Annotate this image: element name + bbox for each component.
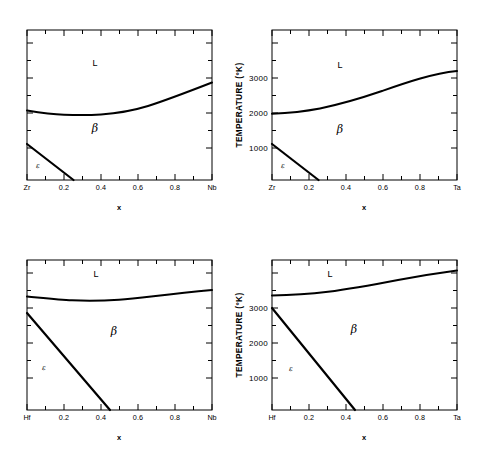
liquidus-curve-hf-ta (272, 271, 457, 296)
phase-label-epsilon-zr-ta: ε (281, 162, 285, 170)
y-ticks-zr-nb (27, 43, 212, 148)
liquidus-curve-zr-nb (27, 83, 212, 116)
y-tick-label-3000-hf-ta: 3000 (249, 304, 268, 313)
x-right-label-hf-nb: Nb (207, 413, 216, 422)
x-right-label-zr-nb: Nb (207, 183, 216, 192)
x-left-label-zr-ta: Zr (269, 183, 276, 192)
plot-frame-hf-nb (27, 260, 212, 410)
y-tick-label-1000-zr-ta: 1000 (249, 144, 268, 153)
x-tick-label-0.2-hf-nb: 0.2 (59, 413, 70, 422)
plot-frame-zr-ta (272, 30, 457, 180)
phase-label-epsilon-hf-nb: ε (42, 364, 46, 372)
x-tick-label-0.6-hf-nb: 0.6 (133, 413, 144, 422)
x-axis-title-hf-nb: x (117, 433, 122, 442)
phase-diagram-figure: L β ε Zr 0.2 0.4 0.6 0.8 Nb x (0, 0, 485, 460)
x-tick-label-0.4-hf-ta: 0.4 (341, 413, 352, 422)
phase-label-liquid-zr-ta: L (337, 60, 342, 70)
x-ticks-zr-nb (27, 30, 212, 180)
solvus-line-zr-ta (272, 144, 319, 180)
x-tick-label-0.6-hf-ta: 0.6 (378, 413, 389, 422)
y-tick-label-2000-zr-ta: 2000 (249, 109, 268, 118)
y-tick-label-2000-hf-ta: 2000 (249, 339, 268, 348)
y-ticks-hf-ta (272, 273, 457, 378)
panel-hf-nb: L β ε Hf 0.2 0.4 0.6 0.8 Nb x (0, 230, 250, 460)
phase-label-beta-zr-ta: β (336, 123, 343, 136)
phase-label-epsilon-zr-nb: ε (36, 162, 40, 170)
x-tick-label-0.2-hf-ta: 0.2 (304, 413, 315, 422)
x-tick-label-0.6-zr-nb: 0.6 (133, 183, 144, 192)
phase-label-beta-zr-nb: β (91, 122, 98, 135)
phase-label-epsilon-hf-ta: ε (289, 365, 293, 373)
x-tick-label-0.4-zr-nb: 0.4 (96, 183, 107, 192)
x-tick-label-0.8-zr-ta: 0.8 (415, 183, 426, 192)
y-tick-label-3000-zr-ta: 3000 (249, 74, 268, 83)
plot-frame-zr-nb (27, 30, 212, 180)
x-tick-label-0.4-zr-ta: 0.4 (341, 183, 352, 192)
x-ticks-hf-ta (272, 260, 457, 410)
x-left-label-zr-nb: Zr (24, 183, 31, 192)
phase-label-liquid-zr-nb: L (92, 58, 97, 68)
x-tick-label-0.2-zr-nb: 0.2 (59, 183, 70, 192)
solvus-line-zr-nb (27, 144, 74, 180)
x-tick-label-0.8-hf-nb: 0.8 (170, 413, 181, 422)
phase-label-beta-hf-nb: β (110, 325, 117, 338)
phase-label-liquid-hf-ta: L (327, 269, 332, 279)
x-tick-label-0.6-zr-ta: 0.6 (378, 183, 389, 192)
solvus-line-hf-ta (272, 308, 355, 410)
x-tick-label-0.4-hf-nb: 0.4 (96, 413, 107, 422)
y-axis-title-hf-ta: TEMPERATURE (°K) (235, 292, 244, 377)
liquidus-curve-zr-ta (272, 71, 457, 114)
y-ticks-zr-ta (272, 43, 457, 148)
x-ticks-zr-ta (272, 30, 457, 180)
x-tick-label-0.8-hf-ta: 0.8 (415, 413, 426, 422)
plot-frame-hf-ta (272, 260, 457, 410)
y-tick-label-1000-hf-ta: 1000 (249, 374, 268, 383)
liquidus-curve-hf-nb (27, 290, 212, 301)
x-axis-title-zr-nb: x (117, 203, 122, 212)
x-tick-label-0.8-zr-nb: 0.8 (170, 183, 181, 192)
panel-zr-ta: L β ε 3000 2000 1000 TEMPERATURE (°K) Zr… (230, 0, 485, 230)
x-tick-label-0.2-zr-ta: 0.2 (304, 183, 315, 192)
x-right-label-zr-ta: Ta (453, 183, 461, 192)
panel-hf-ta: L β ε 3000 2000 1000 TEMPERATURE (°K) Hf… (230, 230, 485, 460)
phase-label-liquid-hf-nb: L (93, 269, 98, 279)
x-axis-title-hf-ta: x (362, 433, 367, 442)
y-axis-title-zr-ta: TEMPERATURE (°K) (235, 62, 244, 147)
x-ticks-hf-nb (27, 260, 212, 410)
x-left-label-hf-ta: Hf (268, 413, 275, 422)
solvus-line-hf-nb (27, 313, 110, 410)
x-right-label-hf-ta: Ta (453, 413, 461, 422)
x-left-label-hf-nb: Hf (23, 413, 30, 422)
panel-zr-nb: L β ε Zr 0.2 0.4 0.6 0.8 Nb x (0, 0, 250, 230)
phase-label-beta-hf-ta: β (350, 323, 357, 336)
y-ticks-hf-nb (27, 273, 212, 378)
x-axis-title-zr-ta: x (362, 203, 367, 212)
